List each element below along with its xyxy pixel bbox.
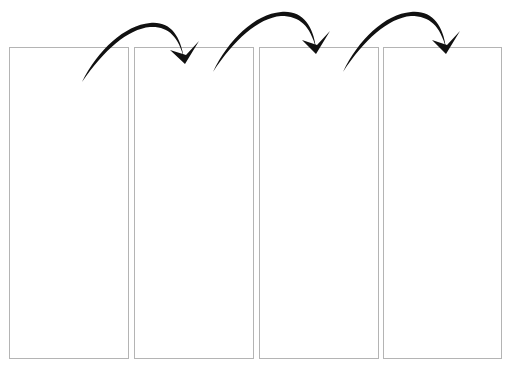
panel-2: [134, 47, 254, 359]
panel-1: [9, 47, 129, 359]
panel-3: [259, 47, 379, 359]
panel-4: [383, 47, 502, 359]
